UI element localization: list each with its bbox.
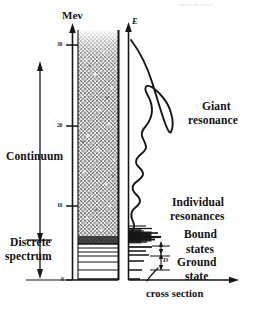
tick-label-0: 0 — [61, 276, 63, 282]
bound-states-label-line2: states — [186, 243, 214, 255]
individual-resonance-spikes — [129, 226, 161, 243]
continuum-block — [78, 30, 118, 244]
tick-label-20: 20 — [57, 122, 62, 128]
bound-state-spikes — [129, 247, 152, 279]
ground-state-label-line1: Ground — [177, 256, 216, 268]
giant-resonance-label-line2: resonance — [188, 114, 238, 126]
discrete-level-lines — [78, 244, 119, 279]
giant-resonance-curve — [129, 40, 173, 236]
bound-states-label-line1: Bound — [184, 228, 217, 240]
continuum-label: Continuum — [6, 150, 63, 162]
mev-axis — [66, 23, 78, 280]
cross-section-axis-label: cross section — [146, 288, 203, 299]
giant-resonance-label-line1: Giant — [202, 100, 231, 112]
discrete-spectrum-label-line2: spectrum — [5, 250, 52, 262]
mev-axis-label: Mev — [62, 9, 83, 21]
tick-label-30: 30 — [57, 41, 62, 47]
scan-artifact-text: nuclear level — [180, 2, 213, 7]
tick-label-10: 10 — [57, 202, 62, 208]
individual-resonances-label-line1: Individual — [172, 196, 224, 208]
ground-state-label-line2: state — [185, 270, 209, 282]
level-spacing-symbol-label: D — [163, 256, 168, 264]
energy-symbol-label: E — [132, 16, 138, 26]
discrete-spectrum-label-line1: Discrete — [10, 236, 51, 248]
individual-resonances-label-line2: resonances — [170, 210, 224, 222]
figure-root: nuclear level Mev E 30 20 10 0 Continuum… — [0, 0, 266, 310]
